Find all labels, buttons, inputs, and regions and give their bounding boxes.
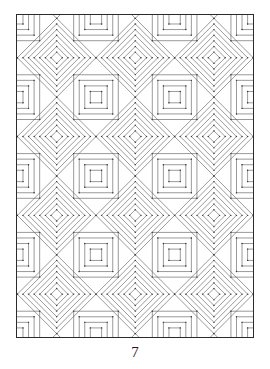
pattern-artwork — [17, 15, 253, 337]
page-number: 7 — [0, 342, 270, 362]
pattern-frame — [16, 14, 254, 338]
pattern-page: 7 — [0, 0, 270, 369]
